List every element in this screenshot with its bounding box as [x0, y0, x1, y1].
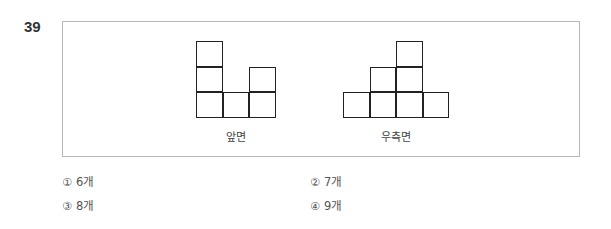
block-cell: [343, 92, 370, 118]
block-cell: [196, 67, 223, 93]
option-2-mark: ②: [310, 176, 320, 189]
option-2[interactable]: ②7개: [310, 173, 342, 189]
block-cell: [249, 67, 276, 93]
option-4-text: 9개: [324, 199, 342, 213]
option-1-text: 6개: [76, 175, 94, 189]
option-3-mark: ③: [62, 200, 72, 213]
block-cell: [223, 92, 250, 118]
block-cell: [396, 41, 423, 67]
figure-box: [62, 21, 580, 157]
block-cell: [370, 67, 397, 93]
front-view-figure: [196, 41, 276, 119]
question-number: 39: [24, 18, 41, 35]
block-cell: [196, 92, 223, 118]
option-1-mark: ①: [62, 176, 72, 189]
block-cell: [249, 92, 276, 118]
block-cell: [196, 41, 223, 67]
front-view-label: 앞면: [196, 128, 276, 144]
right-view-figure: [343, 41, 449, 119]
block-cell: [396, 67, 423, 93]
option-3[interactable]: ③8개: [62, 197, 94, 213]
option-4-mark: ④: [310, 200, 320, 213]
option-2-text: 7개: [324, 175, 342, 189]
right-view-label: 우측면: [356, 128, 436, 144]
option-1[interactable]: ①6개: [62, 173, 94, 189]
option-3-text: 8개: [76, 199, 94, 213]
block-cell: [370, 92, 397, 118]
option-4[interactable]: ④9개: [310, 197, 342, 213]
block-cell: [423, 92, 450, 118]
block-cell: [396, 92, 423, 118]
